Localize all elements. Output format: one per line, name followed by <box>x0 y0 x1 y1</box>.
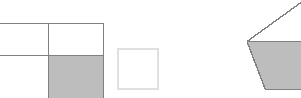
grid-cell-bottom-left <box>0 56 49 98</box>
grid-cell-top-right <box>49 23 104 56</box>
figure-grid-rectangle <box>0 23 104 98</box>
figure-small-square <box>118 49 158 89</box>
grid-cell-bottom-right-shaded <box>49 56 104 98</box>
figure-canvas <box>0 0 301 98</box>
geometric-figures-svg <box>0 0 301 98</box>
grid-cell-top-left <box>0 23 49 56</box>
small-square-shape <box>118 49 158 89</box>
